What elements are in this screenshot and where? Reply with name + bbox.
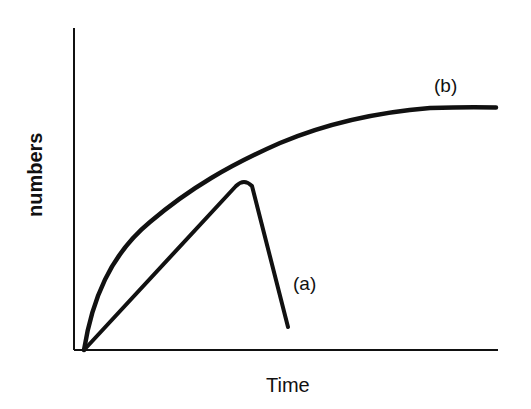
y-axis-label: numbers: [24, 133, 46, 217]
line-chart: (a) (b) Time numbers: [0, 0, 531, 409]
curve-b-label: (b): [434, 75, 457, 96]
chart-canvas: (a) (b) Time numbers: [0, 0, 531, 409]
curve-a-label: (a): [293, 273, 316, 294]
curve-b: [84, 107, 496, 350]
x-axis-label: Time: [266, 374, 310, 396]
